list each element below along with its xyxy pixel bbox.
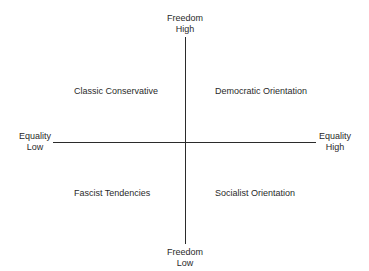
freedom-low-label-line1: Freedom [160,247,210,258]
freedom-high-label-line1: Freedom [160,13,210,24]
equality-high-label: Equality High [313,131,357,153]
equality-low-label-line2: Low [15,142,55,153]
quadrant-classic-conservative: Classic Conservative [74,86,158,97]
equality-high-label-line1: Equality [313,131,357,142]
equality-axis-line [53,142,316,143]
freedom-axis-line [185,37,186,244]
equality-low-label: Equality Low [15,131,55,153]
freedom-low-label: Freedom Low [160,247,210,269]
quadrant-democratic-orientation: Democratic Orientation [215,86,307,97]
freedom-high-label: Freedom High [160,13,210,35]
quadrant-socialist-orientation: Socialist Orientation [215,188,295,199]
freedom-high-label-line2: High [160,24,210,35]
quadrant-fascist-tendencies: Fascist Tendencies [74,188,150,199]
equality-low-label-line1: Equality [15,131,55,142]
equality-high-label-line2: High [313,142,357,153]
freedom-low-label-line2: Low [160,258,210,269]
